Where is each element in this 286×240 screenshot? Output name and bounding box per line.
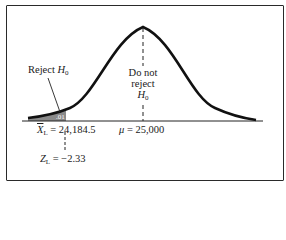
critical-value-label: XL = 24,184.5: [37, 124, 96, 139]
z-critical-label: ZL = −2.33: [40, 153, 86, 168]
do-not-reject-label: Do not reject H0: [128, 67, 158, 104]
area-label: .01: [56, 112, 65, 123]
mean-label: μ = 25,000: [119, 124, 164, 135]
reject-pointer: [48, 78, 60, 112]
reject-h0-label: Reject H0: [28, 64, 69, 79]
